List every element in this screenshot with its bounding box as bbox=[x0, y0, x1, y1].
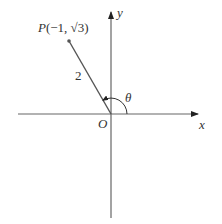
segment-length-label: 2 bbox=[75, 68, 82, 83]
origin-label: O bbox=[98, 116, 108, 131]
point-p-label: P(−1, √3) bbox=[37, 20, 89, 35]
x-axis-label: x bbox=[198, 117, 205, 132]
point-p bbox=[67, 39, 71, 43]
unit-circle-diagram: P(−1, √3) 2 θ O x y bbox=[0, 0, 222, 224]
angle-theta-label: θ bbox=[125, 90, 132, 105]
y-axis-label: y bbox=[115, 5, 123, 20]
